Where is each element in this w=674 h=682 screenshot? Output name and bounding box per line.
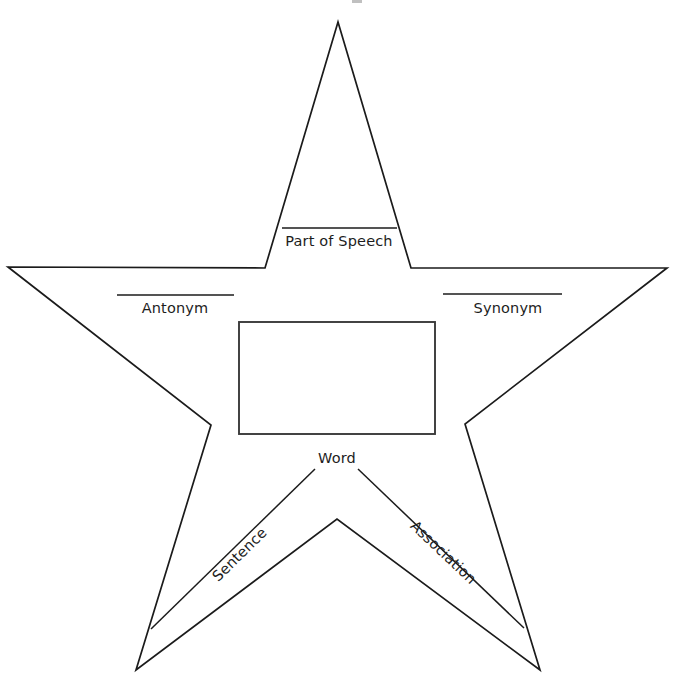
scan-artifact-mark	[352, 0, 362, 3]
antonym-label: Antonym	[142, 300, 209, 316]
word-input-box[interactable]	[239, 322, 435, 434]
word-star-worksheet: Part of Speech Antonym Synonym Word Sent…	[0, 0, 674, 682]
part-of-speech-label: Part of Speech	[285, 233, 392, 249]
synonym-label: Synonym	[474, 300, 543, 316]
word-label: Word	[318, 450, 356, 466]
